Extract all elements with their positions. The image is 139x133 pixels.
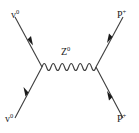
- label-proton-outgoing-charge: +: [123, 112, 127, 119]
- lower-right-fermion-line: [96, 67, 123, 118]
- upper-left-fermion-line: [15, 17, 42, 67]
- label-neutrino-outgoing: v0: [5, 114, 13, 124]
- label-proton-incoming-charge: +: [123, 8, 127, 15]
- label-proton-outgoing: P+: [117, 114, 126, 124]
- label-z-boson-charge: 0: [67, 45, 70, 52]
- feynman-diagram-canvas: v0 v0 P+ P+ Z0: [0, 0, 139, 133]
- label-proton-incoming: P+: [117, 10, 126, 20]
- label-neutrino-outgoing-charge: 0: [10, 112, 13, 119]
- label-neutrino-incoming: v0: [11, 10, 19, 20]
- upper-right-fermion-line: [96, 17, 123, 67]
- label-z-boson: Z0: [61, 47, 70, 57]
- label-neutrino-incoming-charge: 0: [16, 8, 19, 15]
- z-boson-propagator-wave: [42, 64, 96, 71]
